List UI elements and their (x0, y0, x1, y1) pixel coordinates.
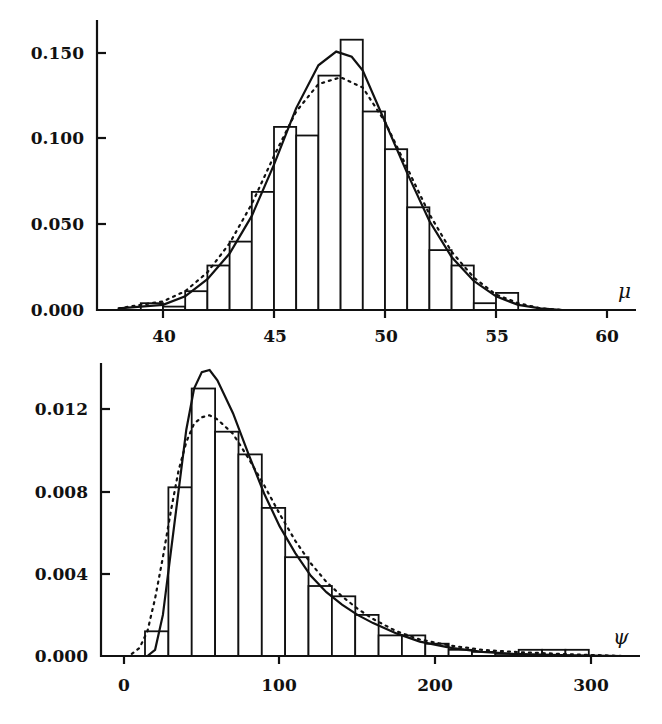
bottom-xtick-label: 300 (573, 675, 609, 695)
histogram-bar (230, 242, 252, 310)
histogram-bar (379, 635, 402, 656)
histogram-bar (207, 266, 229, 311)
bottom-xtick-label: 200 (417, 675, 453, 695)
top-xtick-label: 40 (152, 326, 176, 346)
histogram-bar (309, 586, 332, 656)
top-panel: 0.150 0.100 0.050 0.000 40 45 50 55 60 μ (31, 20, 636, 346)
bottom-ytick-label: 0.004 (35, 564, 88, 584)
top-ytick-label: 0.000 (31, 300, 84, 320)
top-ytick-label: 0.150 (31, 43, 84, 63)
histogram-bar (238, 454, 261, 656)
top-xtick-label: 60 (595, 326, 619, 346)
histogram-bar (215, 432, 238, 656)
bottom-xtick-label: 100 (261, 675, 297, 695)
top-xtick-label: 55 (485, 326, 509, 346)
histogram-bar (341, 40, 363, 310)
top-x-variable-label: μ (618, 279, 631, 303)
histogram-bar (385, 149, 407, 310)
figure: 0.150 0.100 0.050 0.000 40 45 50 55 60 μ… (0, 0, 662, 724)
top-xtick-label: 45 (263, 326, 287, 346)
histogram-bar (192, 389, 215, 657)
bottom-ytick-label: 0.012 (35, 399, 88, 419)
histogram-bar (168, 487, 191, 656)
bottom-ytick-label: 0.000 (35, 646, 88, 666)
bottom-xtick-label: 0 (118, 675, 130, 695)
histogram-bar (296, 136, 318, 311)
histogram-bar (363, 112, 385, 311)
top-xtick-label: 50 (374, 326, 398, 346)
histogram-bar (318, 76, 340, 310)
histogram-bar (429, 250, 451, 310)
histogram-bar (407, 207, 429, 310)
histogram-bar (285, 557, 308, 656)
top-ytick-label: 0.100 (31, 128, 84, 148)
bottom-x-variable-label: ψ (613, 625, 629, 649)
bottom-ytick-label: 0.008 (35, 482, 88, 502)
top-ytick-label: 0.050 (31, 214, 84, 234)
bottom-panel: 0.012 0.008 0.004 0.000 0 100 200 300 ψ (35, 363, 640, 695)
